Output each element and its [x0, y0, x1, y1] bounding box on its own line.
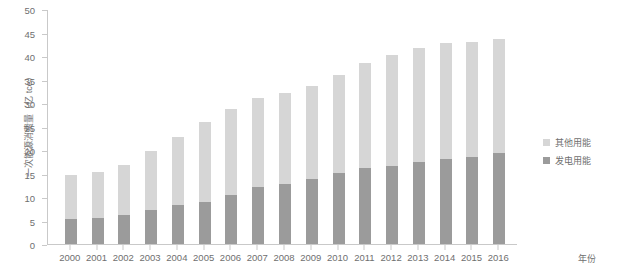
y-axis-tick-label: 5	[30, 216, 35, 227]
bar-segment-power-generation[interactable]	[306, 179, 318, 244]
x-axis-tick	[364, 245, 365, 250]
x-axis-tick	[203, 245, 204, 250]
x-axis-tick	[96, 245, 97, 250]
legend-item[interactable]: 其他用能	[543, 133, 591, 151]
bar-segment-other-energy[interactable]	[65, 175, 77, 219]
y-axis-tick: 45	[42, 34, 47, 35]
x-axis-tick	[337, 245, 338, 250]
bar-segment-other-energy[interactable]	[118, 165, 130, 215]
x-axis-tick-label: 2002	[113, 252, 134, 263]
x-axis-tick	[444, 245, 445, 250]
bar-group[interactable]	[413, 48, 425, 244]
bar-group[interactable]	[440, 43, 452, 244]
bar-group[interactable]	[145, 151, 157, 244]
bar-segment-power-generation[interactable]	[466, 157, 478, 244]
bar-group[interactable]	[92, 172, 104, 244]
x-axis-tick-label: 2012	[381, 252, 402, 263]
bar-segment-other-energy[interactable]	[493, 39, 505, 153]
bar-group[interactable]	[359, 63, 371, 244]
stacked-bar-chart: 一次能源消费量（亿 tce） 05101520253035404550 2000…	[0, 0, 618, 280]
y-axis-tick: 20	[42, 151, 47, 152]
x-axis-tick	[150, 245, 151, 250]
x-axis-tick	[123, 245, 124, 250]
bar-group[interactable]	[306, 86, 318, 244]
y-axis-tick-label: 20	[24, 146, 35, 157]
bar-segment-power-generation[interactable]	[440, 159, 452, 244]
bar-segment-other-energy[interactable]	[306, 86, 318, 179]
y-axis-tick-label: 40	[24, 52, 35, 63]
bar-segment-power-generation[interactable]	[92, 218, 104, 244]
x-axis-tick-label: 2016	[488, 252, 509, 263]
bar-group[interactable]	[225, 109, 237, 244]
bar-group[interactable]	[279, 93, 291, 244]
x-axis-tick-label: 2007	[247, 252, 268, 263]
bar-segment-other-energy[interactable]	[359, 63, 371, 169]
y-axis-tick: 25	[42, 128, 47, 129]
bar-segment-other-energy[interactable]	[92, 172, 104, 218]
plot-area: 05101520253035404550	[47, 10, 517, 245]
bar-segment-other-energy[interactable]	[440, 43, 452, 159]
bar-segment-power-generation[interactable]	[145, 210, 157, 244]
y-axis-tick-label: 50	[24, 5, 35, 16]
bar-segment-other-energy[interactable]	[145, 151, 157, 209]
bar-segment-other-energy[interactable]	[172, 137, 184, 205]
bar-group[interactable]	[333, 75, 345, 244]
bar-segment-power-generation[interactable]	[493, 153, 505, 244]
y-axis-tick-label: 0	[30, 240, 35, 251]
bar-segment-power-generation[interactable]	[65, 219, 77, 244]
x-axis-tick-label: 2013	[407, 252, 428, 263]
bar-group[interactable]	[118, 165, 130, 244]
x-axis-tick	[284, 245, 285, 250]
legend-item[interactable]: 发电用能	[543, 151, 591, 169]
x-axis-tick	[310, 245, 311, 250]
bar-segment-other-energy[interactable]	[413, 48, 425, 162]
bar-segment-other-energy[interactable]	[225, 109, 237, 195]
legend-label: 发电用能	[555, 154, 591, 167]
bar-group[interactable]	[252, 98, 264, 244]
x-axis-tick	[498, 245, 499, 250]
bar-segment-power-generation[interactable]	[199, 202, 211, 244]
legend-swatch	[543, 139, 550, 146]
bar-group[interactable]	[466, 42, 478, 244]
x-axis-tick-label: 2004	[166, 252, 187, 263]
bar-group[interactable]	[65, 175, 77, 244]
bar-segment-power-generation[interactable]	[225, 195, 237, 244]
bar-segment-other-energy[interactable]	[386, 55, 398, 166]
x-axis-tick	[69, 245, 70, 250]
x-axis-tick	[471, 245, 472, 250]
chart-legend: 其他用能发电用能	[543, 133, 591, 169]
bar-segment-power-generation[interactable]	[386, 166, 398, 244]
x-axis-tick-label: 2000	[59, 252, 80, 263]
x-axis-tick	[230, 245, 231, 250]
bar-segment-other-energy[interactable]	[466, 42, 478, 157]
bar-segment-power-generation[interactable]	[359, 168, 371, 244]
x-axis-tick-label: 2001	[86, 252, 107, 263]
bar-segment-other-energy[interactable]	[252, 98, 264, 187]
x-axis-tick-label: 2011	[354, 252, 374, 263]
bar-segment-other-energy[interactable]	[199, 122, 211, 201]
x-axis-tick-label: 2015	[461, 252, 482, 263]
bar-group[interactable]	[493, 39, 505, 244]
y-axis-tick-label: 30	[24, 99, 35, 110]
bar-segment-power-generation[interactable]	[172, 205, 184, 244]
bar-group[interactable]	[386, 55, 398, 244]
bar-segment-power-generation[interactable]	[118, 215, 130, 244]
bar-segment-power-generation[interactable]	[279, 184, 291, 244]
bar-segment-power-generation[interactable]	[252, 187, 264, 244]
bar-segment-other-energy[interactable]	[279, 93, 291, 184]
y-axis-tick: 40	[42, 57, 47, 58]
x-axis-tick-label: 2006	[220, 252, 241, 263]
x-axis-tick-label: 2005	[193, 252, 214, 263]
y-axis-tick: 10	[42, 198, 47, 199]
x-axis-tick-label: 2009	[300, 252, 321, 263]
y-axis-tick-label: 25	[24, 122, 35, 133]
x-axis-line	[47, 244, 517, 245]
bar-segment-other-energy[interactable]	[333, 75, 345, 173]
bar-group[interactable]	[199, 122, 211, 244]
x-axis-tick	[391, 245, 392, 250]
bar-segment-power-generation[interactable]	[333, 173, 345, 244]
bar-segment-power-generation[interactable]	[413, 162, 425, 244]
x-axis-tick-label: 2008	[273, 252, 294, 263]
bar-group[interactable]	[172, 137, 184, 244]
legend-label: 其他用能	[555, 136, 591, 149]
